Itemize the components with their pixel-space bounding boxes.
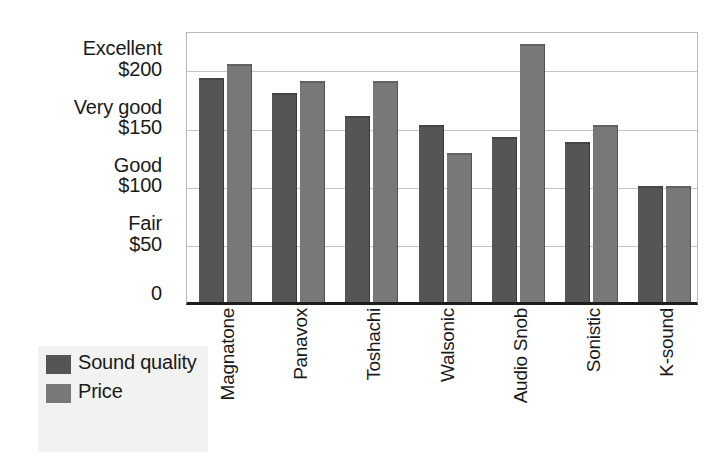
y-tick-100: Good$100: [114, 155, 162, 197]
bar-panavox-price: [300, 81, 325, 302]
bar-group: [345, 31, 398, 302]
bar-cap: [666, 186, 690, 188]
bar-sonistic-price: [593, 125, 618, 302]
x-tick-label-panavox: Panavox: [291, 308, 310, 458]
bar-magnatone-price: [227, 64, 252, 302]
bar-audio-snob-sound-quality: [492, 137, 517, 302]
bar-k-sound-sound-quality: [638, 186, 663, 302]
legend-label: Price: [78, 381, 123, 402]
bar-cap: [419, 125, 443, 127]
y-tick-quality-label: Good: [114, 155, 162, 176]
x-tick-label-walsonic: Walsonic: [438, 308, 457, 458]
y-tick-quality-label: Fair: [128, 213, 162, 234]
bar-chart: Excellent$200Very good$150Good$100Fair$5…: [0, 0, 722, 460]
bars-layer: [187, 31, 697, 302]
bar-cap: [199, 78, 223, 80]
bar-cap: [447, 153, 471, 155]
legend-label: Sound quality: [78, 352, 197, 373]
bar-cap: [565, 142, 589, 144]
y-tick-150: Very good$150: [74, 97, 162, 139]
y-tick-50: Fair$50: [128, 213, 162, 255]
legend-item: Sound quality: [46, 352, 200, 374]
y-tick-value-label: $50: [128, 234, 162, 255]
y-axis: Excellent$200Very good$150Good$100Fair$5…: [0, 32, 176, 308]
bar-cap: [520, 44, 544, 46]
bar-group: [492, 31, 545, 302]
bar-cap: [593, 125, 617, 127]
y-tick-value-label: $100: [114, 175, 162, 196]
y-tick-value-label: $150: [74, 117, 162, 138]
bar-cap: [227, 64, 251, 66]
y-tick-quality-label: Excellent: [83, 38, 162, 59]
x-tick-label-toshachi: Toshachi: [364, 308, 383, 458]
bar-group: [199, 31, 252, 302]
legend-item: Price: [46, 381, 200, 403]
bar-magnatone-sound-quality: [199, 78, 224, 302]
bar-cap: [345, 116, 369, 118]
bar-group: [638, 31, 691, 302]
legend-swatch-icon: [46, 355, 71, 374]
bar-cap: [492, 137, 516, 139]
x-tick-label-audio-snob: Audio Snob: [511, 308, 530, 458]
bar-toshachi-sound-quality: [345, 116, 370, 302]
bar-group: [419, 31, 472, 302]
bar-walsonic-price: [447, 153, 472, 302]
x-axis: MagnatonePanavoxToshachiWalsonicAudio Sn…: [186, 308, 698, 458]
y-tick-value-label: $200: [83, 59, 162, 80]
y-tick-0: 0: [151, 283, 162, 304]
plot-area: [186, 32, 698, 305]
bar-sonistic-sound-quality: [565, 142, 590, 303]
bar-cap: [373, 81, 397, 83]
y-tick-200: Excellent$200: [83, 38, 162, 80]
bar-panavox-sound-quality: [272, 93, 297, 302]
bar-cap: [300, 81, 324, 83]
chart-legend: Sound qualityPrice: [38, 346, 208, 452]
bar-cap: [638, 186, 662, 188]
bar-cap: [272, 93, 296, 95]
bar-audio-snob-price: [520, 44, 545, 302]
bar-group: [272, 31, 325, 302]
x-tick-label-k-sound: K-sound: [657, 308, 676, 458]
bar-group: [565, 31, 618, 302]
x-tick-label-sonistic: Sonistic: [584, 308, 603, 458]
bar-walsonic-sound-quality: [419, 125, 444, 302]
bar-toshachi-price: [373, 81, 398, 302]
y-tick-value-label: 0: [151, 283, 162, 304]
bar-k-sound-price: [666, 186, 691, 302]
x-tick-label-magnatone: Magnatone: [218, 308, 237, 458]
legend-swatch-icon: [46, 384, 71, 403]
y-tick-quality-label: Very good: [74, 97, 162, 118]
